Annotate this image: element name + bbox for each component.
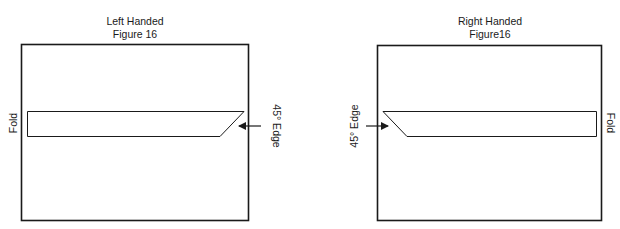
left-fold-label: Fold xyxy=(7,108,19,138)
right-figure xyxy=(366,46,602,221)
left-page-outline xyxy=(22,45,249,221)
left-figure xyxy=(22,45,262,221)
right-page-outline xyxy=(378,46,602,221)
left-folded-strip xyxy=(28,112,245,137)
right-fold-label: Fold xyxy=(605,108,617,138)
right-edge-label: 45° Edge xyxy=(348,101,360,151)
right-folded-strip xyxy=(383,112,597,137)
diagram-canvas xyxy=(0,0,620,229)
left-edge-label: 45° Edge xyxy=(271,101,283,151)
